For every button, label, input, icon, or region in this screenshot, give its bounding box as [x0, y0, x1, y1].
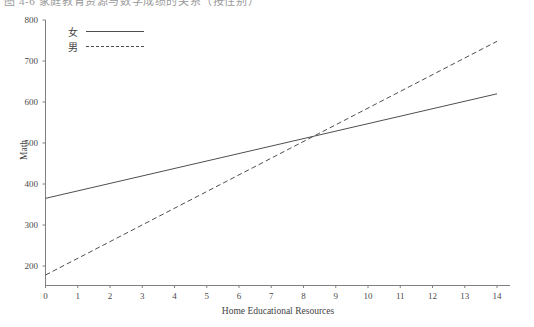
x-tick-label: 4	[172, 291, 177, 301]
x-tick-label: 6	[237, 291, 242, 301]
data-series	[46, 41, 498, 275]
legend-line-solid-icon	[86, 31, 144, 32]
x-tick-label: 0	[43, 291, 48, 301]
axes	[45, 20, 510, 286]
legend-label-male: 男	[68, 39, 78, 54]
x-tick-label: 7	[269, 291, 274, 301]
plot-area: 200300400500600700800 012345678910111213…	[0, 0, 534, 327]
x-tick-label: 13	[460, 291, 469, 301]
y-tick-label: 300	[8, 220, 38, 230]
x-tick-label: 5	[205, 291, 210, 301]
x-tick-label: 3	[140, 291, 145, 301]
y-tick-label: 200	[8, 261, 38, 271]
series-line-male	[46, 41, 498, 275]
legend-label-female: 女	[68, 24, 78, 39]
x-tick-label: 9	[334, 291, 339, 301]
legend-line-dashed-icon	[86, 46, 144, 47]
x-axis-title: Home Educational Resources	[148, 306, 408, 316]
x-tick-label: 10	[364, 291, 373, 301]
y-tick-label: 400	[8, 179, 38, 189]
x-tick-label: 1	[76, 291, 81, 301]
y-tick-label: 700	[8, 56, 38, 66]
x-tick-label: 8	[301, 291, 306, 301]
y-tick-label: 800	[8, 15, 38, 25]
plot-canvas	[0, 0, 534, 327]
series-line-female	[46, 94, 498, 199]
x-tick-label: 12	[428, 291, 437, 301]
y-axis-title: Math	[19, 120, 29, 180]
chart-figure: 图 4-6 家庭教育资源与数学成绩的关系（按性别） 20030040050060…	[0, 0, 534, 327]
x-tick-label: 11	[396, 291, 405, 301]
x-tick-label: 2	[108, 291, 113, 301]
x-tick-label: 14	[493, 291, 502, 301]
y-tick-label: 600	[8, 97, 38, 107]
